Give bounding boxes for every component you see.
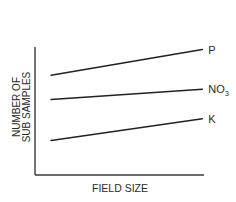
series-label-p: P: [208, 44, 215, 56]
series-line-p: [51, 50, 202, 76]
axes: [35, 47, 204, 175]
series-label-main: NO: [208, 83, 225, 95]
series-label-subscript: 3: [225, 89, 229, 98]
x-axis-label: FIELD SIZE: [92, 182, 148, 194]
series-label-main: P: [208, 44, 215, 56]
series-label-k: K: [208, 113, 216, 125]
y-axis-label-line-2: SUB SAMPLES: [21, 71, 32, 142]
y-axis-label: NUMBER OF SUB SAMPLES: [11, 71, 32, 142]
series-line-k: [51, 119, 202, 141]
series-group: PNO3K: [51, 44, 229, 141]
series-label-no3: NO3: [208, 83, 229, 98]
chart: PNO3K NUMBER OF SUB SAMPLES FIELD SIZE: [0, 0, 236, 202]
series-line-no3: [51, 89, 202, 99]
series-label-main: K: [208, 113, 216, 125]
